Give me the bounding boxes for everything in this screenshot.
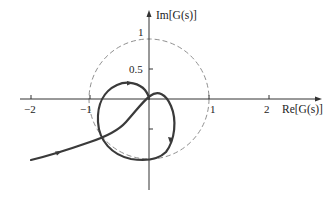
x-tick-label-1: 1	[210, 103, 216, 115]
direction-arrow-icon	[127, 81, 133, 86]
x-tick-label-neg2: −2	[24, 103, 36, 115]
x-tick-label-neg1: −1	[80, 103, 92, 115]
nyquist-curve	[31, 83, 174, 160]
y-axis-arrow-icon	[147, 10, 152, 17]
nyquist-chart: −2 −1 1 2 1 0.5 Re[G(s)] Im[G(s)]	[0, 0, 336, 199]
x-tick-label-2: 2	[264, 103, 270, 115]
y-axis-label: Im[G(s)]	[156, 9, 197, 22]
direction-arrow-icon	[55, 151, 62, 156]
y-tick-label-1: 1	[138, 26, 144, 38]
x-axis-arrow-icon	[315, 97, 322, 102]
y-tick-label-05: 0.5	[129, 63, 143, 75]
x-axis-label: Re[G(s)]	[282, 103, 323, 116]
